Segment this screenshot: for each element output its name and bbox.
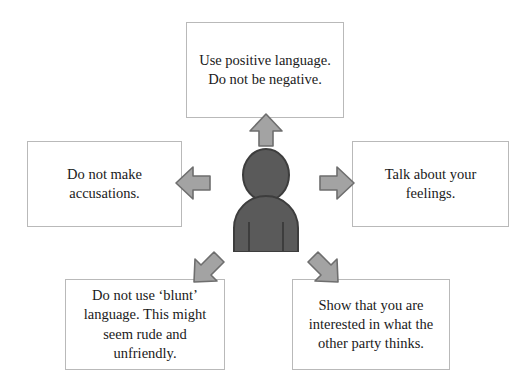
arrow-right-icon <box>318 165 356 201</box>
tip-box-bottom-right: Show that you are interested in what the… <box>292 279 450 370</box>
arrow-up-icon <box>248 112 284 148</box>
tip-box-top: Use positive language. Do not be negativ… <box>186 22 344 118</box>
person-icon <box>228 148 304 252</box>
tip-box-left: Do not make accusations. <box>27 141 182 227</box>
tip-box-bottom-left: Do not use ‘blunt’ language. This might … <box>65 279 225 370</box>
arrow-down-left-icon <box>190 248 228 286</box>
diagram-canvas: Use positive language. Do not be negativ… <box>0 0 531 382</box>
tip-box-left-label: Do not make accusations. <box>36 165 173 203</box>
tip-box-right: Talk about your feelings. <box>352 141 509 227</box>
tip-box-right-label: Talk about your feelings. <box>361 165 500 203</box>
tip-box-top-label: Use positive language. Do not be negativ… <box>195 51 335 89</box>
arrow-left-icon <box>174 165 212 201</box>
tip-box-bottom-left-label: Do not use ‘blunt’ language. This might … <box>74 286 216 363</box>
tip-box-bottom-right-label: Show that you are interested in what the… <box>301 296 441 353</box>
arrow-down-right-icon <box>304 248 342 286</box>
